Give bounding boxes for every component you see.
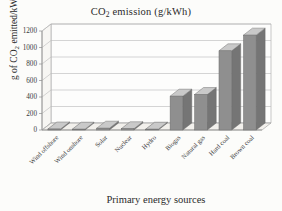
plot-area: 020040060080010001200 Wind offshoreWind … (0, 0, 282, 211)
x-tick-label: Brown coal (228, 134, 255, 161)
chart-figure: CO2 emission (g/kWh) g of CO2 emitted/kW… (0, 0, 282, 211)
bar (219, 44, 241, 130)
y-tick-label: 1200 (23, 27, 38, 35)
y-axis-tick-labels: 020040060080010001200 (23, 27, 38, 134)
y-tick-label: 800 (26, 60, 37, 68)
y-tick-label: 0 (33, 126, 37, 134)
y-tick-label: 1000 (23, 44, 38, 52)
y-tick-label: 200 (26, 110, 37, 118)
y-tick-label: 600 (26, 77, 37, 85)
x-tick-label: Natural gas (180, 133, 207, 160)
y-tick-label: 400 (26, 93, 37, 101)
bar (170, 89, 192, 130)
x-tick-label: Hard coal (207, 134, 230, 157)
x-tick-label: Hydro (140, 133, 157, 150)
x-tick-label: Solar (94, 133, 109, 148)
x-tick-label: Biogas (164, 133, 182, 151)
bar (243, 28, 265, 130)
bar (195, 88, 217, 130)
x-tick-label: Nuclear (113, 133, 133, 153)
x-axis-category-labels: Wind offshoreWind onshoreSolarNuclearHyd… (28, 133, 255, 165)
